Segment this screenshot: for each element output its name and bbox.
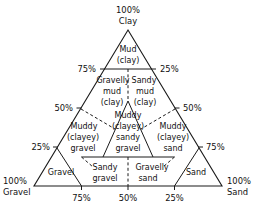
field-line: Muddy bbox=[160, 122, 187, 131]
field-line: sand bbox=[163, 144, 182, 153]
axis-label-left-25: 25% bbox=[31, 142, 50, 152]
field-line: gravel bbox=[115, 144, 140, 153]
corner-label-sand-name: Sand bbox=[227, 187, 248, 197]
field-label-sandy-gravel: Sandy gravel bbox=[92, 163, 117, 183]
corner-label-gravel-pct: 100% bbox=[3, 176, 27, 186]
field-line: Muddy bbox=[71, 122, 98, 131]
ternary-diagram-svg: 100% Clay 100% Gravel 100% Sand 75% 50% … bbox=[0, 0, 257, 210]
field-line: (clayey) bbox=[112, 122, 144, 131]
field-label-sand: Sand bbox=[186, 168, 206, 177]
field-line: (clay) bbox=[101, 98, 124, 107]
field-line: Gravelly bbox=[135, 163, 168, 172]
sandy-gravel-dashed-corner bbox=[82, 157, 94, 167]
field-label-muddy-clayey-sand: Muddy (clayey) sand bbox=[157, 122, 189, 153]
field-line: Sand bbox=[186, 168, 206, 177]
field-line: gravel bbox=[70, 144, 95, 153]
corner-label-clay-pct: 100% bbox=[116, 5, 140, 15]
field-line: mud bbox=[103, 87, 121, 96]
field-label-muddy-clayey-sandy-gravel: Muddy (clayey) sandy gravel bbox=[112, 111, 144, 153]
ternary-diagram-container: 100% Clay 100% Gravel 100% Sand 75% 50% … bbox=[0, 0, 257, 210]
corner-label-gravel-name: Gravel bbox=[3, 187, 31, 197]
field-line: (clayey) bbox=[67, 133, 99, 142]
axis-label-bottom-25: 25% bbox=[165, 193, 184, 203]
field-line: Sandy bbox=[132, 76, 157, 85]
field-line: Gravel bbox=[48, 168, 74, 177]
field-line: sand bbox=[138, 174, 157, 183]
field-line: Gravelly bbox=[96, 76, 129, 85]
corner-label-sand-pct: 100% bbox=[227, 176, 251, 186]
axis-label-bottom-50: 50% bbox=[119, 193, 138, 203]
axis-label-right-75: 75% bbox=[206, 142, 225, 152]
field-label-gravelly-sand: Gravelly sand bbox=[135, 163, 168, 183]
field-line: Mud bbox=[119, 45, 136, 54]
field-label-gravelly-mud-clay: Gravelly mud (clay) bbox=[96, 76, 129, 107]
field-line: Muddy bbox=[115, 111, 142, 120]
axis-label-right-50: 50% bbox=[183, 103, 202, 113]
axis-label-left-75: 75% bbox=[77, 64, 96, 74]
field-line: (clayey) bbox=[157, 133, 189, 142]
field-label-sandy-mud-clay: Sandy mud (clay) bbox=[132, 76, 157, 107]
axis-label-bottom-75: 75% bbox=[72, 193, 91, 203]
field-line: Sandy bbox=[93, 163, 118, 172]
field-line: mud bbox=[136, 87, 154, 96]
axis-label-left-50: 50% bbox=[54, 103, 73, 113]
field-line: (clay) bbox=[117, 56, 140, 65]
field-line: sandy bbox=[116, 133, 140, 142]
field-label-gravel: Gravel bbox=[48, 168, 74, 177]
field-label-mud-clay: Mud (clay) bbox=[117, 45, 140, 65]
field-line: gravel bbox=[92, 174, 117, 183]
axis-label-right-25: 25% bbox=[160, 64, 179, 74]
corner-label-clay-name: Clay bbox=[119, 16, 137, 26]
field-line: (clay) bbox=[134, 98, 157, 107]
field-label-muddy-clayey-gravel: Muddy (clayey) gravel bbox=[67, 122, 99, 153]
